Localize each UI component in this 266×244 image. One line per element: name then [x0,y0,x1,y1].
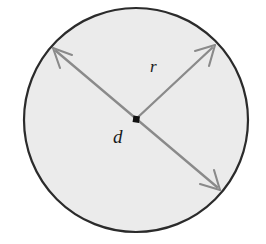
radius-label: r [150,58,157,75]
diameter-label: d [113,127,123,146]
figure-canvas: r d [0,0,266,244]
center-point-marker [133,116,140,123]
circle-diagram-svg [0,0,266,244]
